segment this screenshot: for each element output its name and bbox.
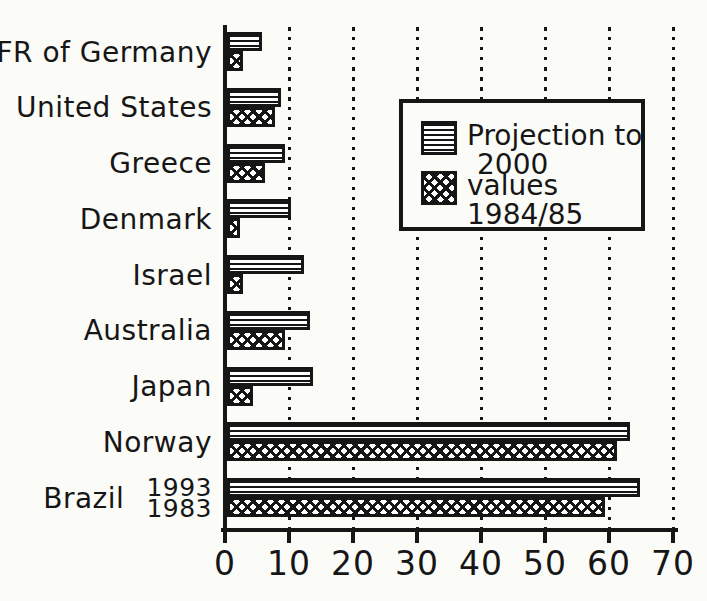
x-tick-label-10: 10 [257,544,321,583]
category-text-united-states: United States [16,91,212,124]
category-label-united-states: United States [0,84,212,132]
x-tick-60 [607,531,611,543]
bar-projection-brazil [227,478,640,497]
bar-projection-fr-of-germany [227,32,262,51]
x-tick-label-60: 60 [577,544,641,583]
bar-values-norway [227,441,617,461]
bar-chart: FR of GermanyUnited StatesGreeceDenmarkI… [0,0,707,601]
x-tick-label-50: 50 [513,544,577,583]
bar-values-israel [227,274,243,294]
bar-projection-australia [227,311,310,330]
bar-projection-norway [227,422,630,441]
x-tick-20 [351,531,355,543]
bar-values-greece [227,163,265,183]
x-tick-50 [543,531,547,543]
bar-projection-japan [227,367,313,386]
category-text-japan: Japan [131,370,212,403]
legend-projection-line1: Projection to [467,121,642,150]
legend-values-line1: values [467,171,583,200]
category-text-australia: Australia [84,314,212,347]
brazil-year-labels: 19931983 [146,477,212,519]
legend-values-line2: 1984/85 [467,200,583,229]
x-tick-label-40: 40 [449,544,513,583]
bar-values-japan [227,386,253,406]
bar-values-brazil [227,497,605,517]
bar-projection-israel [227,255,304,274]
horizontal-stripes-swatch [421,121,457,155]
category-text-israel: Israel [132,259,212,292]
category-label-norway: Norway [0,418,212,466]
category-label-japan: Japan [0,363,212,411]
category-text-brazil: Brazil [43,482,124,515]
x-tick-label-20: 20 [321,544,385,583]
gridline-70 [672,27,675,528]
bar-values-australia [227,330,285,350]
x-tick-0 [223,531,227,543]
x-tick-label-70: 70 [641,544,705,583]
bar-values-fr-of-germany [227,51,243,71]
bar-values-denmark [227,218,240,238]
brazil-values-year: 1983 [146,498,212,519]
category-label-greece: Greece [0,140,212,188]
x-tick-40 [479,531,483,543]
bar-projection-united-states [227,88,281,107]
category-text-norway: Norway [103,426,212,459]
bar-projection-denmark [227,199,291,218]
x-tick-label-30: 30 [385,544,449,583]
x-tick-label-0: 0 [193,544,257,583]
bar-projection-greece [227,144,285,163]
category-label-denmark: Denmark [0,195,212,243]
category-text-denmark: Denmark [80,203,212,236]
category-label-brazil: Brazil19931983 [0,474,212,522]
bar-values-united-states [227,107,275,127]
x-tick-30 [415,531,419,543]
category-label-australia: Australia [0,307,212,355]
x-tick-10 [287,531,291,543]
legend-box: Projection to 2000 values 1984/85 [399,99,645,231]
category-text-fr-of-germany: FR of Germany [0,36,212,69]
category-label-fr-of-germany: FR of Germany [0,28,212,76]
category-text-greece: Greece [109,147,212,180]
legend-label-values: values 1984/85 [467,171,583,230]
crosshatch-swatch [421,171,457,205]
x-tick-70 [671,531,675,543]
legend-entry-values: values 1984/85 [421,171,583,230]
category-label-israel: Israel [0,251,212,299]
